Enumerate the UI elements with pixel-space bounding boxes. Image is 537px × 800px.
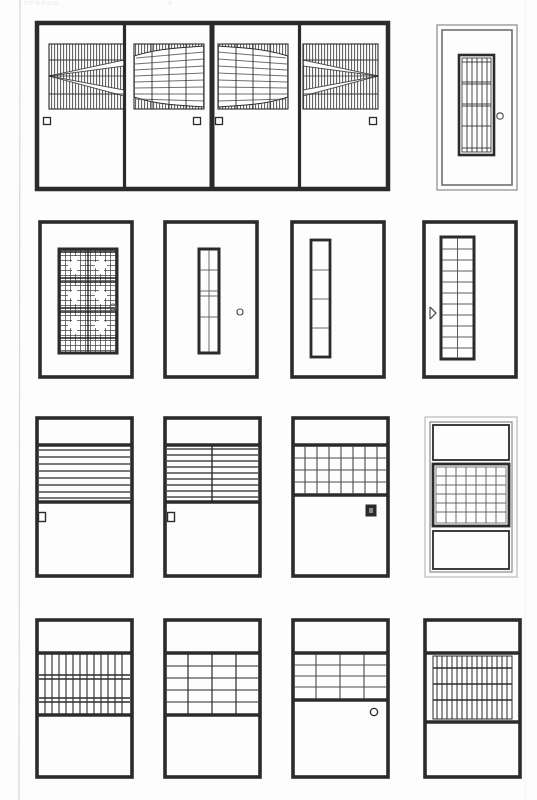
square-handle-icon	[44, 118, 51, 125]
r1-leaf-4-grille	[303, 44, 378, 109]
r1-leaf-3-grille	[218, 44, 288, 109]
plate-drawing	[0, 0, 537, 800]
r1-leaf-1-grille	[49, 44, 124, 109]
square-handle-icon	[168, 513, 175, 522]
square-handle-icon	[370, 118, 377, 125]
drawing-sheet: ПРИЛОЖ. А	[0, 0, 537, 800]
header-left-text: ПРИЛОЖ.	[24, 0, 64, 6]
square-handle-icon	[216, 118, 223, 125]
square-handle-icon	[194, 118, 201, 125]
r2-door-1-grille	[59, 249, 117, 353]
r1-leaf-2-grille	[134, 44, 204, 109]
r4-unit-4-bars	[437, 656, 507, 719]
header-right-text: А	[168, 0, 174, 6]
square-handle-icon	[39, 513, 46, 522]
